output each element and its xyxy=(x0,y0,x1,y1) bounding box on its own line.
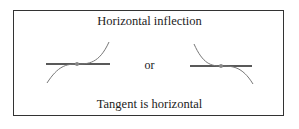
inflection-point-dot xyxy=(75,62,79,66)
rising-inflection-figure xyxy=(46,42,110,83)
inflection-point-dot xyxy=(219,64,223,68)
falling-inflection-figure xyxy=(190,44,253,84)
inflection-figures xyxy=(0,0,299,129)
falling-curve xyxy=(194,44,253,84)
